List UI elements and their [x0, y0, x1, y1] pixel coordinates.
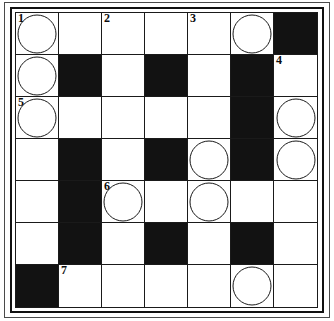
clue-number: 4 [276, 54, 282, 67]
grid-cell[interactable] [188, 181, 231, 223]
grid-cell-block [16, 265, 59, 307]
circle-marker-icon [18, 98, 57, 137]
clue-number: 2 [104, 12, 110, 25]
grid-cell-block [231, 223, 274, 265]
grid-cell[interactable]: 6 [102, 181, 145, 223]
grid-cell[interactable] [188, 55, 231, 97]
grid-cell-block [59, 55, 102, 97]
clue-number: 3 [190, 12, 196, 25]
clue-number: 6 [104, 180, 110, 193]
puzzle-grid-border: 1234567 [10, 7, 324, 313]
grid-cell[interactable] [188, 223, 231, 265]
grid-cell[interactable] [145, 97, 188, 139]
grid-cell-block [59, 139, 102, 181]
grid-cell[interactable] [274, 265, 317, 307]
grid-cell[interactable] [274, 97, 317, 139]
grid-cell[interactable] [16, 55, 59, 97]
grid-cell[interactable]: 1 [16, 13, 59, 55]
circle-marker-icon [18, 14, 57, 53]
grid-cell[interactable] [145, 181, 188, 223]
circle-marker-icon [104, 182, 143, 221]
grid-cell[interactable] [231, 265, 274, 307]
grid-cell[interactable]: 2 [102, 13, 145, 55]
grid-cell[interactable]: 3 [188, 13, 231, 55]
grid-cell-block [231, 97, 274, 139]
grid-cell[interactable] [102, 139, 145, 181]
circle-marker-icon [233, 267, 272, 306]
clue-number: 7 [61, 264, 67, 277]
grid-cell[interactable] [188, 265, 231, 307]
grid-cell[interactable] [145, 265, 188, 307]
circle-marker-icon [190, 140, 229, 179]
circle-marker-icon [18, 56, 57, 95]
grid-cell-block [59, 223, 102, 265]
grid-cell-block [145, 139, 188, 181]
grid-cell-block [274, 13, 317, 55]
grid-cell[interactable] [274, 223, 317, 265]
grid-cell[interactable] [16, 139, 59, 181]
circle-marker-icon [276, 140, 315, 179]
grid-cell[interactable] [102, 223, 145, 265]
crossword-grid[interactable]: 1234567 [15, 12, 318, 308]
grid-cell[interactable] [145, 13, 188, 55]
clue-number: 1 [18, 12, 24, 25]
grid-cell-block [145, 223, 188, 265]
grid-cell[interactable] [188, 97, 231, 139]
grid-cell[interactable] [231, 13, 274, 55]
grid-cell[interactable] [274, 181, 317, 223]
grid-cell[interactable] [59, 97, 102, 139]
grid-cell[interactable] [16, 181, 59, 223]
circle-marker-icon [276, 98, 315, 137]
grid-cell-block [145, 55, 188, 97]
grid-cell[interactable] [102, 97, 145, 139]
grid-cell-block [231, 55, 274, 97]
grid-cell[interactable] [16, 223, 59, 265]
grid-cell[interactable] [188, 139, 231, 181]
grid-cell[interactable] [102, 265, 145, 307]
circle-marker-icon [190, 182, 229, 221]
clue-number: 5 [18, 96, 24, 109]
grid-cell[interactable] [231, 181, 274, 223]
puzzle-outer-frame: 1234567 [4, 2, 330, 318]
grid-cell[interactable] [59, 13, 102, 55]
grid-cell[interactable]: 7 [59, 265, 102, 307]
grid-cell-block [231, 139, 274, 181]
grid-cell[interactable] [274, 139, 317, 181]
grid-cell[interactable]: 5 [16, 97, 59, 139]
grid-cell[interactable]: 4 [274, 55, 317, 97]
grid-cell-block [59, 181, 102, 223]
grid-cell[interactable] [102, 55, 145, 97]
circle-marker-icon [233, 14, 272, 53]
